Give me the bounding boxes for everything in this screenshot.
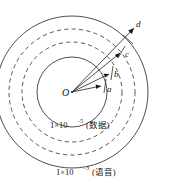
- diagram-canvas: O a b c d 1×10 −5 (数据) 1×10 −3 (语音): [0, 0, 170, 183]
- outer-ring-mantissa: 1×10: [56, 167, 74, 177]
- ray-label-c: c: [125, 49, 129, 59]
- ray-label-d: d: [136, 19, 141, 29]
- outer-ring-suffix: (语音): [92, 167, 116, 177]
- inner-ring-mantissa: 1×10: [50, 120, 68, 130]
- center-label: O: [62, 87, 69, 98]
- inner-ring-suffix: (数据): [86, 120, 110, 130]
- inner-ring-exponent: −5: [77, 118, 83, 124]
- inner-ring-annotation: 1×10 −5 (数据): [50, 118, 110, 130]
- outer-ring-annotation: 1×10 −3 (语音): [56, 165, 116, 177]
- ray-label-b: b: [114, 69, 119, 79]
- ray-a: [72, 79, 106, 93]
- concentric-circles-figure: O a b c d 1×10 −5 (数据) 1×10 −3 (语音): [0, 0, 170, 183]
- ray-label-a: a: [107, 84, 112, 94]
- outer-ring-exponent: −3: [83, 165, 89, 171]
